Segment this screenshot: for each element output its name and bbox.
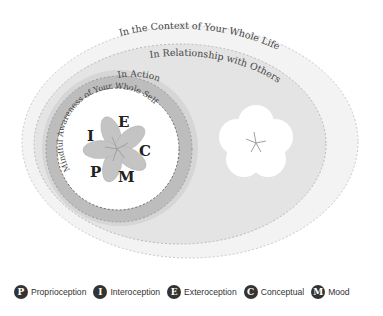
legend-item-exteroception: E Exteroception (167, 285, 237, 299)
mindfulness-diagram: In the Context of Your Whole Life In Rel… (0, 0, 383, 280)
legend-item-interoception: I Interoception (93, 285, 160, 299)
letter-i-badge-icon: I (93, 285, 107, 299)
legend-label: Mood (328, 287, 350, 297)
legend-label: Exteroception (184, 287, 237, 297)
legend-label: Proprioception (31, 287, 86, 297)
legend: P Proprioception I Interoception E Exter… (14, 285, 357, 299)
letter-p-badge-icon: P (14, 285, 28, 299)
legend-item-mood: M Mood (311, 285, 350, 299)
letter-i: I (87, 127, 94, 145)
letter-m-badge-icon: M (311, 285, 325, 299)
letter-p: P (90, 163, 101, 181)
legend-label: Interoception (110, 287, 160, 297)
letter-c: C (139, 142, 151, 160)
letter-m: M (118, 168, 135, 186)
legend-item-proprioception: P Proprioception (14, 285, 86, 299)
legend-label: Conceptual (261, 287, 304, 297)
letter-c-badge-icon: C (244, 285, 258, 299)
letter-e: E (118, 113, 129, 131)
legend-item-conceptual: C Conceptual (244, 285, 304, 299)
letter-e-badge-icon: E (167, 285, 181, 299)
